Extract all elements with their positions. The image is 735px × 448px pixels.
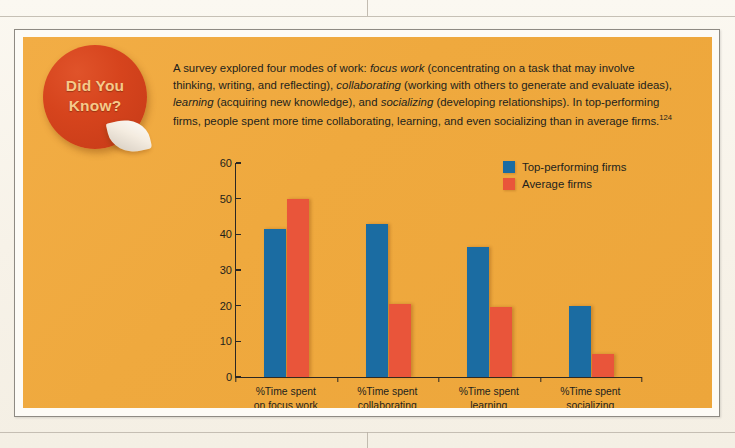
y-axis-tick-mark (236, 305, 241, 306)
intro-segment-0: A survey explored four modes of work: (173, 62, 370, 74)
x-axis-label-line: %Time spent (235, 385, 337, 399)
y-axis-tick: 30 (220, 264, 236, 276)
x-axis-tick-mark (438, 377, 439, 382)
y-axis-tick: 60 (220, 157, 236, 169)
x-axis-label-line: on focus work (235, 399, 337, 408)
page-fold-line-bottom (367, 432, 368, 448)
intro-paragraph: A survey explored four modes of work: fo… (173, 60, 673, 129)
y-axis-tick: 50 (220, 193, 236, 205)
y-axis-tick-mark (236, 341, 241, 342)
y-axis-tick-label: 40 (220, 228, 236, 240)
y-axis-tick-mark (236, 376, 241, 377)
y-axis-tick-mark (236, 234, 241, 235)
page-fold-line-top (367, 0, 368, 16)
x-axis-tick-mark (540, 377, 541, 382)
x-axis-tick-mark (337, 377, 338, 382)
badge-label-line2: Know? (69, 96, 122, 116)
x-axis-label: %Time spentsocializing (540, 385, 642, 408)
y-axis-tick-label: 20 (220, 300, 236, 312)
orange-panel: Did You Know? A survey explored four mod… (23, 37, 712, 408)
bar-average[interactable] (490, 307, 512, 377)
did-you-know-card: Did You Know? A survey explored four mod… (14, 29, 720, 417)
y-axis-tick-mark (236, 198, 241, 199)
bar-average[interactable] (389, 304, 411, 377)
page-margin-rule-top (0, 16, 735, 17)
bar-top-performing[interactable] (569, 306, 591, 377)
intro-segment-1: focus work (370, 62, 424, 74)
page-background: Did You Know? A survey explored four mod… (0, 0, 735, 448)
bar-top-performing[interactable] (264, 229, 286, 377)
chart-plot-area: 6050403020100 (235, 163, 642, 378)
x-axis-label: %Time spentlearning (438, 385, 540, 408)
y-axis-tick-label: 30 (220, 264, 236, 276)
x-axis-tick-mark (641, 377, 642, 382)
y-axis-tick: 20 (220, 300, 236, 312)
bar-average[interactable] (592, 354, 614, 377)
bar-top-performing[interactable] (467, 247, 489, 377)
bar-group (439, 163, 541, 377)
intro-segment-6: (acquiring new knowledge), and (214, 96, 381, 108)
bar-group (338, 163, 440, 377)
bar-average[interactable] (287, 199, 309, 377)
intro-segment-7: socializing (381, 96, 434, 108)
chart-x-axis-labels: %Time spenton focus work%Time spentcolla… (235, 385, 641, 408)
x-axis-label-line: learning (438, 399, 540, 408)
intro-segment-4: (working with others to generate and eva… (401, 79, 672, 91)
x-axis-label-line: %Time spent (438, 385, 540, 399)
intro-segment-5: learning (173, 96, 214, 108)
y-axis-tick-label: 10 (220, 335, 236, 347)
y-axis-tick-mark (236, 162, 241, 163)
x-axis-label-line: collaborating (337, 399, 439, 408)
intro-segment-9: 124 (659, 113, 672, 122)
x-axis-label: %Time spentcollaborating (337, 385, 439, 408)
x-axis-label-line: socializing (540, 399, 642, 408)
bar-top-performing[interactable] (366, 224, 388, 377)
y-axis-tick-mark (236, 269, 241, 270)
badge-label: Did You Know? (43, 45, 147, 149)
bar-group (541, 163, 643, 377)
bar-chart: Top-performing firmsAverage firms 605040… (173, 153, 693, 408)
chart-bar-groups (236, 163, 642, 377)
y-axis-tick: 40 (220, 228, 236, 240)
y-axis-tick-label: 50 (220, 193, 236, 205)
x-axis-label-line: %Time spent (337, 385, 439, 399)
y-axis-tick: 10 (220, 335, 236, 347)
bar-group (236, 163, 338, 377)
intro-segment-3: collaborating (336, 79, 401, 91)
x-axis-tick-mark (235, 377, 236, 382)
badge-label-line1: Did You (66, 76, 125, 96)
y-axis-tick-label: 60 (220, 157, 236, 169)
x-axis-label-line: %Time spent (540, 385, 642, 399)
did-you-know-badge: Did You Know? (43, 45, 147, 149)
x-axis-label: %Time spenton focus work (235, 385, 337, 408)
